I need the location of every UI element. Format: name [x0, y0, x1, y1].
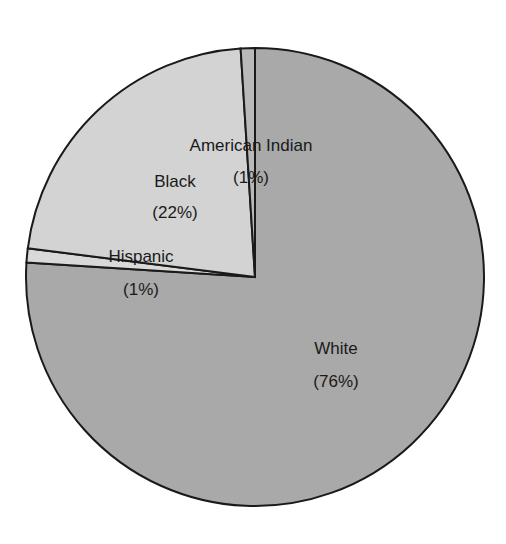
label-black-name: Black — [154, 172, 196, 191]
label-white-name: White — [314, 339, 357, 358]
pie-chart: White (76%) Black (22%) Hispanic (1%) Am… — [0, 0, 506, 544]
label-hispanic-name: Hispanic — [108, 247, 174, 266]
label-black-pct: (22%) — [152, 203, 197, 222]
label-hispanic-pct: (1%) — [123, 280, 159, 299]
label-american-indian-name: American Indian — [190, 136, 313, 155]
pie-slices — [26, 48, 484, 506]
label-american-indian-pct: (1%) — [233, 168, 269, 187]
label-white-pct: (76%) — [313, 372, 358, 391]
pie-slice-black — [28, 48, 255, 277]
